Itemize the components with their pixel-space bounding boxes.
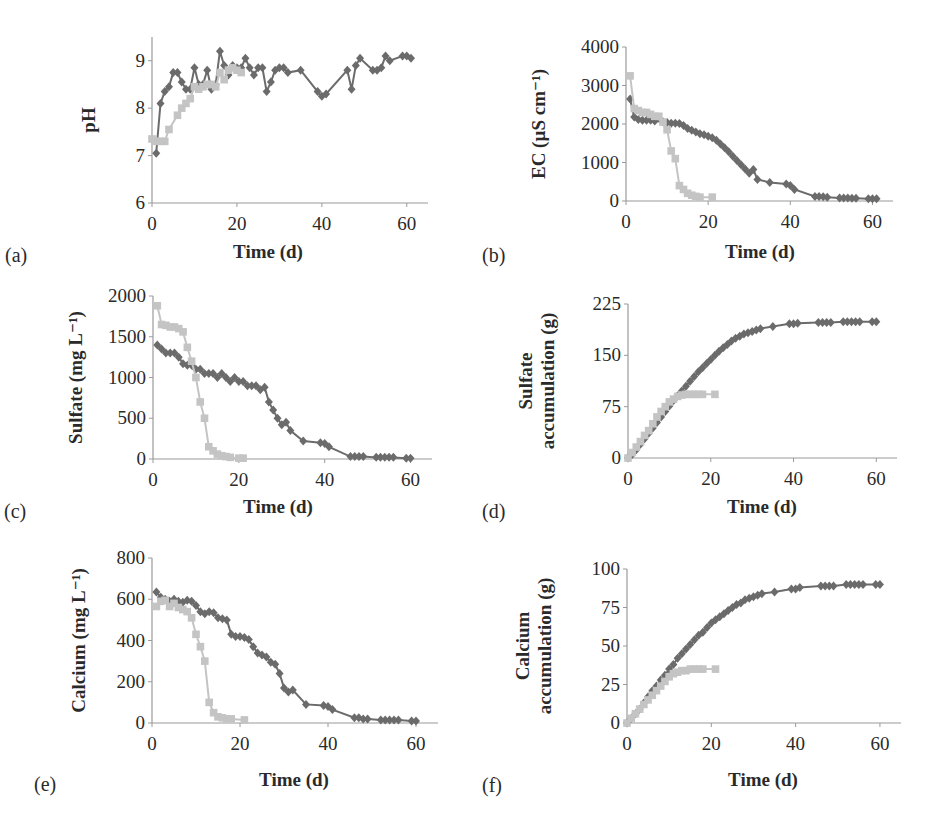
diamond-marker [241,54,249,63]
diamond-marker [267,78,275,87]
square-marker [699,391,707,399]
square-marker [711,391,719,399]
y-tick-label: 0 [610,190,620,211]
diamond-marker [412,716,420,725]
x-tick-label: 40 [784,468,803,489]
y-tick-label: 7 [136,145,146,166]
diamond-marker [359,452,367,461]
diamond-marker [190,63,198,72]
square-marker [192,631,200,639]
square-marker [708,193,716,201]
y-axis-label: accumulation (g) [537,313,559,450]
x-tick-label: 20 [702,733,721,754]
square-marker [153,302,161,310]
panel-b: 020406001000200030004000Time (d)EC (µS c… [460,0,929,270]
y-axis-label: pH [78,107,99,133]
diamond-marker [152,149,160,158]
diamond-marker [876,580,884,589]
diamond-marker [216,47,224,56]
chart-calcium: 02040600200400600800Time (d)Calcium (mg … [0,530,460,827]
y-axis-label: Sulfate [515,353,536,410]
y-tick-label: 9 [136,50,146,71]
square-marker [226,454,234,462]
square-marker [165,126,173,134]
x-tick-label: 60 [863,211,882,232]
x-tick-label: 20 [699,211,718,232]
y-tick-label: 0 [611,712,621,733]
y-tick-label: 50 [601,635,620,656]
square-marker [626,72,634,80]
y-axis-label: Calcium [512,612,533,681]
y-axis-label: Calcium (mg L⁻¹) [68,568,90,713]
diamond-marker [258,63,266,72]
x-axis-label: Time (d) [243,496,313,518]
square-marker [212,83,220,91]
y-axis-label: accumulation (g) [534,578,556,715]
x-tick-label: 40 [319,733,338,754]
diamond-marker [872,317,880,326]
x-axis-label: Time (d) [259,769,329,791]
y-tick-label: 200 [117,671,146,692]
diamond-marker [753,175,761,184]
x-tick-label: 60 [401,469,420,490]
square-marker [663,126,671,134]
series-dark-diamond [152,588,420,726]
y-tick-label: 500 [118,407,147,428]
x-tick-label: 20 [231,733,250,754]
square-marker [188,614,196,622]
diamond-marker [873,194,881,203]
diamond-marker [859,580,867,589]
x-tick-label: 0 [623,468,633,489]
y-tick-label: 1000 [108,367,146,388]
square-marker [188,357,196,365]
chart-calcium-accumulation: 02040600255075100Time (d)Calciumaccumula… [460,530,929,827]
x-tick-label: 0 [147,213,157,234]
y-tick-label: 225 [593,293,622,314]
y-tick-label: 2000 [581,113,619,134]
y-axis-label: EC (µS cm⁻¹) [528,69,550,179]
panel-d: 0204060075150225Time (d)Sulfateaccumulat… [460,270,929,530]
x-tick-label: 0 [148,469,158,490]
panel-label: (f) [482,774,502,797]
square-marker [205,699,213,707]
y-tick-label: 8 [136,97,146,118]
diamond-marker [263,87,271,96]
diamond-marker [766,178,774,187]
series-dark-diamond [623,580,884,728]
diamond-marker [830,581,838,590]
square-marker [659,118,667,126]
y-tick-label: 6 [136,192,146,213]
diamond-marker [276,669,284,678]
x-axis-label: Time (d) [725,241,795,263]
diamond-marker [827,318,835,327]
x-tick-label: 60 [870,733,889,754]
x-tick-label: 40 [781,211,800,232]
diamond-marker [364,714,372,723]
diamond-marker [173,68,181,77]
diamond-marker [389,453,397,462]
chart-ph: 02040606789Time (d)pH(a) [0,0,460,270]
y-tick-label: 4000 [581,36,619,57]
y-tick-label: 150 [593,344,622,365]
square-marker [696,193,704,201]
square-marker [712,665,720,673]
square-marker [186,95,194,103]
y-tick-label: 0 [137,448,147,469]
x-tick-label: 60 [407,733,426,754]
panel-a: 02040606789Time (d)pH(a) [0,0,460,270]
y-tick-label: 1000 [581,152,619,173]
diamond-marker [156,99,164,108]
y-tick-label: 3000 [581,75,619,96]
x-tick-label: 40 [312,213,331,234]
square-marker [201,657,209,665]
square-marker [197,643,205,651]
series-dark-diamond [626,94,880,203]
series-dark-diamond [624,317,880,462]
x-tick-label: 60 [397,213,416,234]
y-tick-label: 0 [136,712,146,733]
diamond-marker [269,406,277,415]
square-marker [671,155,679,163]
chart-sulfate: 02040600500100015002000Time (d)Sulfate (… [0,270,460,530]
square-marker [179,328,187,336]
square-marker [196,398,204,406]
